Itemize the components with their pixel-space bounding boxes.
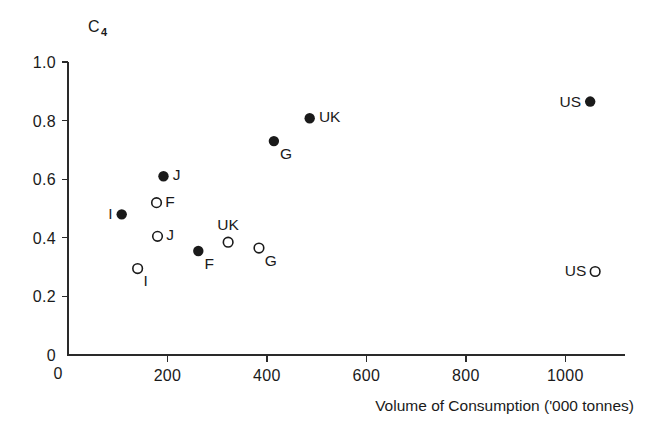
y-axis-label-subscript: 4 [101,26,108,38]
data-point-label: J [166,226,174,243]
data-point: I [108,205,127,222]
y-axis-label: C [88,18,100,35]
y-tick-label: 0.8 [33,113,56,130]
data-point: US [565,262,600,279]
data-point: G [269,136,292,162]
data-point-label: F [204,255,213,272]
chart-canvas: 00.20.40.60.81.002004006008001000 IJFGUK… [0,0,659,435]
data-point: J [153,226,174,243]
data-point-label: I [143,272,147,289]
open-circle-marker [133,264,143,274]
x-tick-label: 800 [452,367,480,384]
data-point: UK [217,216,239,247]
filled-circle-marker [585,96,595,106]
data-point-label: G [265,252,277,269]
open-circle-marker [223,237,233,247]
tick-label-group: 00.20.40.60.81.002004006008001000 [33,54,584,384]
x-axis-label: Volume of Consumption ('000 tonnes) [375,397,634,414]
filled-circle-marker [269,136,279,146]
open-circle-marker [254,243,264,253]
data-point-label: J [173,166,181,183]
open-circle-marker [152,198,162,208]
data-point-group: IJFGUKUSIJFUKGUS [108,93,600,290]
data-point: G [254,243,277,269]
y-tick-label: 1.0 [33,54,56,71]
data-point: F [152,193,175,210]
data-point-label: G [280,145,292,162]
data-point: J [158,166,180,183]
open-circle-marker [590,267,600,277]
y-tick-label: 0.2 [33,288,56,305]
y-tick-label: 0.4 [33,230,56,247]
x-tick-label: 0 [53,365,62,382]
axis-group [68,62,625,355]
data-point-label: US [559,93,581,110]
data-point: F [193,246,214,272]
x-tick-label: 200 [154,367,182,384]
scatter-chart: 00.20.40.60.81.002004006008001000 IJFGUK… [0,0,659,435]
data-point: I [133,264,148,290]
data-point: US [559,93,595,110]
filled-circle-marker [117,209,127,219]
data-point-label: UK [319,108,341,125]
x-tick-label: 1000 [547,367,584,384]
x-tick-label: 600 [353,367,381,384]
data-point: UK [304,108,341,125]
open-circle-marker [153,232,163,242]
filled-circle-marker [193,246,203,256]
tick-group [62,62,565,362]
filled-circle-marker [304,113,314,123]
y-tick-label: 0.6 [33,171,56,188]
x-tick-label: 400 [253,367,281,384]
data-point-label: US [565,262,587,279]
axis-lines [68,62,625,355]
y-tick-label: 0 [47,347,56,364]
data-point-label: UK [217,216,239,233]
data-point-label: I [108,205,112,222]
data-point-label: F [165,193,174,210]
filled-circle-marker [158,171,168,181]
